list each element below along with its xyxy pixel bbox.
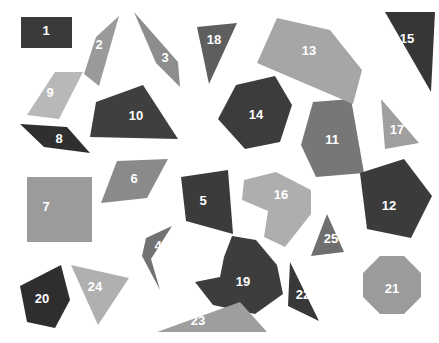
shape-7: 7 [27, 177, 92, 242]
shape-8-label: 8 [55, 131, 62, 146]
shape-13-label: 13 [302, 43, 316, 58]
shape-5-label: 5 [199, 193, 206, 208]
shape-23-label: 23 [191, 313, 205, 328]
shape-22-label: 22 [296, 287, 310, 302]
shape-14-label: 14 [249, 107, 264, 122]
shape-10-label: 10 [129, 108, 143, 123]
shape-12-label: 12 [382, 198, 396, 213]
shape-2-label: 2 [95, 37, 102, 52]
shape-7-label: 7 [42, 199, 49, 214]
shapes-svg: 1234567891011121314151617181920212223242… [0, 0, 439, 343]
shape-20-label: 20 [35, 291, 49, 306]
shape-21: 21 [363, 256, 421, 314]
shape-17-label: 17 [390, 122, 404, 137]
shape-19-label: 19 [236, 274, 250, 289]
shape-7-square [27, 177, 92, 242]
shape-21-label: 21 [385, 281, 399, 296]
shape-9-label: 9 [46, 85, 53, 100]
shape-1-label: 1 [42, 23, 49, 38]
shape-1: 1 [21, 17, 72, 48]
shape-16-label: 16 [274, 187, 288, 202]
figure-canvas: 1234567891011121314151617181920212223242… [0, 0, 439, 343]
shape-25-label: 25 [324, 231, 338, 246]
shape-15-label: 15 [400, 31, 414, 46]
shape-3-label: 3 [161, 50, 168, 65]
shape-24-label: 24 [88, 279, 103, 294]
shape-18-label: 18 [207, 32, 221, 47]
shape-11-label: 11 [325, 132, 339, 147]
shape-4-label: 4 [154, 238, 162, 253]
shape-6-label: 6 [130, 171, 137, 186]
